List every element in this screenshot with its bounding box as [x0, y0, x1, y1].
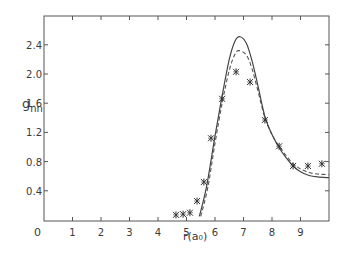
x-tick-label: 3	[126, 227, 132, 238]
asterisk-marker	[276, 143, 282, 150]
x-axis-label: r(a₀)	[183, 230, 207, 243]
origin-label: 0	[34, 226, 41, 239]
y-tick-label: 0.4	[26, 186, 42, 197]
plot-frame	[44, 16, 329, 221]
asterisk-marker	[262, 116, 268, 123]
x-tick-label: 1	[69, 227, 75, 238]
asterisk-marker	[319, 160, 325, 167]
tick-labels: 1234567890.40.81.21.62.02.4	[26, 40, 304, 238]
y-axis-label-main: g	[22, 96, 30, 111]
theory-solid-line	[199, 37, 329, 217]
y-tick-label: 2.4	[26, 40, 42, 51]
axis-ticks	[44, 16, 329, 221]
theory-dashed-line	[201, 51, 329, 217]
asterisk-marker	[247, 79, 253, 86]
y-tick-label: 1.2	[26, 127, 42, 138]
x-tick-label: 6	[212, 227, 218, 238]
x-tick-label: 7	[240, 227, 246, 238]
asterisk-marker	[201, 179, 207, 186]
x-tick-label: 2	[98, 227, 104, 238]
asterisk-marker	[187, 209, 193, 216]
asterisk-marker	[219, 95, 225, 102]
y-tick-label: 0.8	[26, 157, 42, 168]
x-tick-label: 9	[297, 227, 303, 238]
asterisk-marker	[305, 162, 311, 169]
asterisk-marker	[173, 211, 179, 218]
x-tick-label: 8	[269, 227, 275, 238]
asterisk-marker	[194, 198, 200, 205]
experiment-markers	[173, 68, 325, 218]
asterisk-marker	[208, 135, 214, 142]
y-tick-label: 2.0	[26, 69, 42, 80]
asterisk-marker	[233, 68, 239, 75]
x-tick-label: 4	[155, 227, 161, 238]
asterisk-marker	[290, 162, 296, 169]
y-axis-label-sub: nn	[30, 103, 43, 114]
chart: 1234567890.40.81.21.62.02.4 gnn r(a₀) 0	[0, 0, 350, 254]
asterisk-marker	[180, 211, 186, 218]
